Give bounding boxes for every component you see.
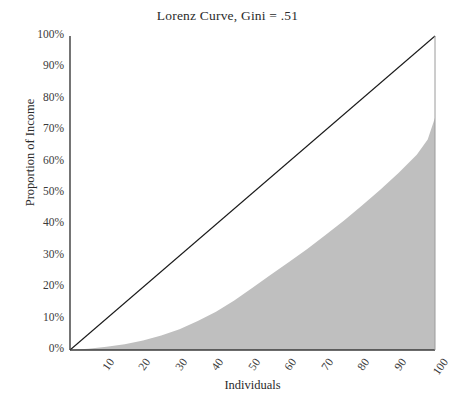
lorenz-curve-area bbox=[70, 118, 435, 350]
y-tick-label: 50% bbox=[18, 185, 64, 197]
y-tick-label: 60% bbox=[18, 154, 64, 166]
lorenz-curve-figure: Lorenz Curve, Gini = .51 Proportion of I… bbox=[0, 0, 455, 407]
y-tick-label: 20% bbox=[18, 279, 64, 291]
y-tick-label: 70% bbox=[18, 122, 64, 134]
y-tick-label: 30% bbox=[18, 248, 64, 260]
y-tick-label: 90% bbox=[18, 59, 64, 71]
y-tick-label: 0% bbox=[18, 342, 64, 354]
plot-area bbox=[0, 0, 455, 407]
y-tick-label: 10% bbox=[18, 311, 64, 323]
y-tick-label: 100% bbox=[18, 28, 64, 40]
y-tick-label: 40% bbox=[18, 216, 64, 228]
y-tick-label: 80% bbox=[18, 91, 64, 103]
